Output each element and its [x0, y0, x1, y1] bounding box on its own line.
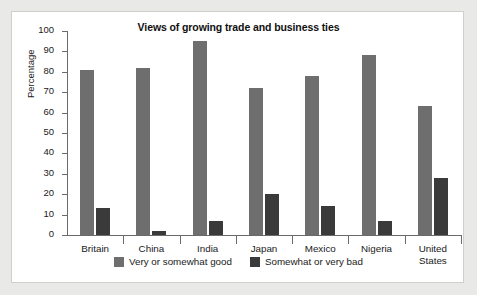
group-separator [461, 235, 462, 244]
x-axis-label: China [123, 243, 179, 255]
y-tick-label: 70 [43, 85, 54, 96]
x-axis-label: Britain [67, 243, 123, 255]
y-tick-0: 0 [62, 235, 67, 236]
y-tick-70: 70 [62, 92, 67, 93]
plot-area: 0102030405060708090100 BritainChinaIndia… [67, 31, 461, 235]
legend-item: Somewhat or very bad [250, 256, 363, 267]
y-tick-label: 50 [43, 126, 54, 137]
y-tick-label: 80 [43, 65, 54, 76]
legend-item: Very or somewhat good [114, 256, 232, 267]
y-axis-title: Percentage [25, 49, 36, 98]
x-axis-label: India [180, 243, 236, 255]
bar [265, 194, 279, 235]
y-tick-label: 60 [43, 106, 54, 117]
legend-label: Very or somewhat good [129, 256, 232, 267]
y-tick-30: 30 [62, 174, 67, 175]
y-tick-40: 40 [62, 153, 67, 154]
y-tick-label: 90 [43, 44, 54, 55]
y-tick-100: 100 [62, 31, 67, 32]
bar [96, 208, 110, 235]
x-axis-line [67, 235, 461, 236]
bar [193, 41, 207, 235]
y-tick-10: 10 [62, 215, 67, 216]
bar [418, 106, 432, 235]
y-tick-label: 0 [49, 228, 54, 239]
bar [80, 70, 94, 235]
chart-panel: Views of growing trade and business ties… [11, 11, 464, 283]
bar [434, 178, 448, 235]
y-tick-label: 100 [38, 24, 54, 35]
x-axis-label: Japan [236, 243, 292, 255]
y-tick-label: 20 [43, 187, 54, 198]
y-tick-label: 30 [43, 167, 54, 178]
bar [378, 221, 392, 235]
y-tick-90: 90 [62, 51, 67, 52]
y-tick-60: 60 [62, 113, 67, 114]
bar [209, 221, 223, 235]
bar [152, 231, 166, 235]
y-tick-50: 50 [62, 133, 67, 134]
figure-root: Views of growing trade and business ties… [0, 0, 477, 295]
x-axis-label: Mexico [292, 243, 348, 255]
y-tick-20: 20 [62, 194, 67, 195]
bar [136, 68, 150, 235]
y-axis-line [67, 31, 68, 236]
y-tick-label: 40 [43, 146, 54, 157]
bar [362, 55, 376, 235]
y-tick-label: 10 [43, 208, 54, 219]
bar [321, 206, 335, 235]
legend-swatch-bad [250, 257, 260, 267]
bar [305, 76, 319, 235]
bar [249, 88, 263, 235]
x-axis-label: Nigeria [348, 243, 404, 255]
legend: Very or somewhat goodSomewhat or very ba… [12, 256, 465, 267]
legend-swatch-good [114, 257, 124, 267]
legend-label: Somewhat or very bad [265, 256, 363, 267]
y-tick-80: 80 [62, 72, 67, 73]
